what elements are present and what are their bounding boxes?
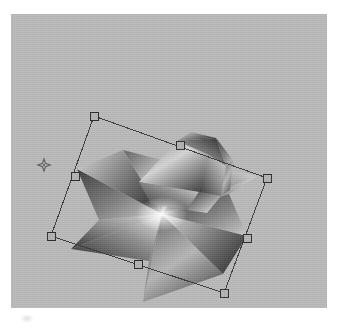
- handle-top-center[interactable]: [176, 141, 184, 149]
- handle-middle-left[interactable]: [71, 172, 79, 180]
- pivot-center-dot: [43, 164, 46, 167]
- handle-top-left[interactable]: [90, 112, 98, 120]
- handle-bottom-center[interactable]: [134, 260, 142, 268]
- handle-bottom-right[interactable]: [220, 289, 228, 297]
- star-polyhedron[interactable]: [71, 132, 257, 302]
- pivot-marker[interactable]: [38, 159, 50, 171]
- handle-bottom-left[interactable]: [47, 232, 55, 240]
- scene-canvas[interactable]: [11, 14, 327, 308]
- perspective-viewport[interactable]: [11, 14, 327, 308]
- application-window: [0, 0, 338, 330]
- handle-top-right[interactable]: [263, 174, 271, 182]
- handle-middle-right[interactable]: [243, 234, 251, 242]
- specular-highlight: [136, 197, 188, 231]
- scan-artifact: [20, 314, 34, 323]
